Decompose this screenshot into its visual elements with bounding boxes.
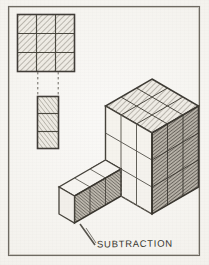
- plan-square-figure: [18, 15, 75, 72]
- drawing-canvas: [0, 0, 209, 265]
- removed-strip-figure: [38, 97, 59, 149]
- sketch-sheet: SUBTRACTION: [0, 0, 209, 265]
- figure-caption: SUBTRACTION: [97, 238, 173, 250]
- dashed-projection-lines: [38, 72, 58, 96]
- isometric-mass: [59, 79, 199, 223]
- guide-tick: [80, 224, 96, 245]
